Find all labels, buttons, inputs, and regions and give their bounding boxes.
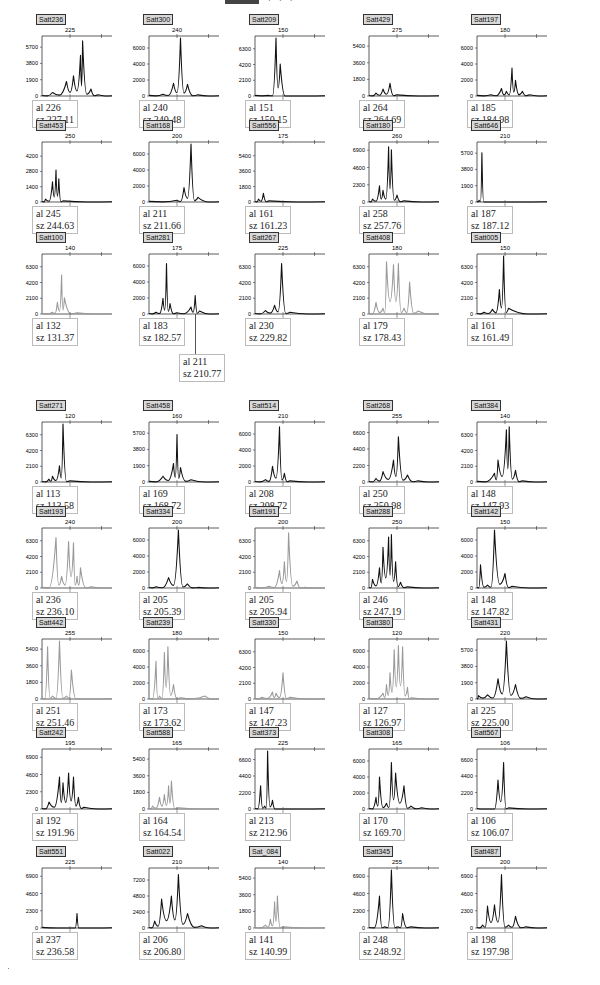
allele-callout: al 187sz 187.12 [467, 206, 513, 234]
plot-axes [42, 639, 112, 699]
allele-call: al 141 [249, 934, 287, 946]
allele-call: al 179 [363, 320, 401, 332]
allele-call: al 185 [471, 102, 509, 114]
y-tick-label: 6000 [461, 537, 473, 543]
y-tick-label: 1900 [26, 77, 38, 83]
fluorescence-trace [255, 751, 325, 809]
allele-call: al 225 [471, 705, 509, 717]
marker-panel: Satt5561750180036005400al 161sz 161.23 [233, 120, 353, 240]
marker-panel: Satt3301500210042006300al 147sz 147.23 [233, 617, 353, 737]
fluorescence-trace [255, 427, 325, 482]
y-tick-label: 3600 [353, 60, 365, 66]
electropherogram-plot: 2000200040006000 [127, 120, 247, 210]
y-tick-label: 4000 [133, 553, 145, 559]
plot-axes [149, 639, 219, 699]
y-tick-label: 6000 [133, 648, 145, 654]
y-tick-label: 1800 [239, 908, 251, 914]
marker-panel: Satt5671060220044006600al 106sz 106.07 [455, 727, 575, 847]
y-tick-label: 2000 [133, 680, 145, 686]
allele-call: al 211 [143, 208, 181, 220]
y-tick-label: 4400 [461, 773, 473, 779]
allele-call: al 161 [471, 320, 509, 332]
fluorescence-trace [149, 875, 219, 928]
plot-axes [477, 142, 547, 202]
allele-call: al 240 [143, 102, 181, 114]
y-tick-label: 4000 [133, 664, 145, 670]
allele-size: sz 257.76 [363, 220, 401, 232]
electropherogram-plot: 2100200040006000 [233, 400, 353, 490]
size-tick-label: 165 [172, 740, 183, 746]
allele-call: al 251 [36, 705, 74, 717]
allele-call: al 113 [36, 488, 74, 500]
y-tick-label: 2100 [26, 295, 38, 301]
fluorescence-trace [255, 896, 325, 928]
marker-panel: Satt1802600230046006900al 258sz 257.76 [347, 120, 467, 240]
size-tick-label: 260 [392, 133, 403, 139]
y-tick-label: 0 [142, 806, 145, 812]
y-tick-label: 4200 [26, 448, 38, 454]
y-tick-label: 4200 [353, 280, 365, 286]
electropherogram-plot: 2200190038005700 [455, 617, 575, 707]
y-tick-label: 6300 [26, 538, 38, 544]
y-tick-label: 5400 [353, 43, 365, 49]
marker-panel: Satt2882500210042006300al 246sz 247.19 [347, 506, 467, 626]
y-tick-label: 2000 [461, 569, 473, 575]
marker-panel: Satt4581600190038005700al 169sz 168.72 [127, 400, 247, 520]
y-tick-label: 6900 [461, 873, 473, 879]
allele-call: al 164 [143, 815, 181, 827]
y-tick-label: 6300 [461, 432, 473, 438]
y-tick-label: 1400 [26, 184, 38, 190]
allele-size: sz 131.37 [36, 332, 74, 344]
plot-axes [255, 749, 325, 809]
y-tick-label: 0 [470, 925, 473, 931]
y-tick-label: 4400 [239, 773, 251, 779]
electropherogram-plot: 1750200040006000 [127, 232, 247, 322]
electropherogram-plot: 1500200040006000 [455, 506, 575, 596]
electropherogram-plot: 2500140028004200 [20, 120, 140, 210]
marker-panel: Satt2362250190038005700al 226sz 227.11 [20, 14, 140, 134]
size-tick-label: 195 [65, 740, 76, 746]
plot-axes [369, 528, 439, 588]
allele-callout: al 161sz 161.49 [467, 318, 513, 346]
y-tick-label: 4200 [239, 280, 251, 286]
plot-axes [477, 422, 547, 482]
y-tick-label: 0 [248, 806, 251, 812]
marker-panel: Sat_0841400180036005400al 141sz 140.99 [233, 846, 353, 966]
y-tick-label: 0 [248, 311, 251, 317]
marker-panel: Satt2672250210042006300al 230sz 229.82 [233, 232, 353, 352]
electropherogram-plot: 1800210042006300 [347, 232, 467, 322]
size-tick-label: 140 [278, 859, 289, 865]
allele-callout: al 205sz 205.39 [139, 592, 185, 620]
electropherogram-plot: 1500210042006300 [233, 14, 353, 104]
fluorescence-trace [477, 763, 547, 809]
fluorescence-trace [369, 262, 439, 314]
marker-panel: Satt4872000230046006900al 198sz 197.98 [455, 846, 575, 966]
y-tick-label: 2300 [353, 182, 365, 188]
electropherogram-plot: 1400210042006300 [20, 232, 140, 322]
y-tick-label: 2000 [133, 569, 145, 575]
y-tick-label: 2100 [461, 295, 473, 301]
size-tick-label: 150 [278, 27, 289, 33]
allele-call: al 161 [249, 208, 287, 220]
allele-callout: al 246sz 247.19 [359, 592, 405, 620]
size-tick-label: 210 [172, 859, 183, 865]
electropherogram-plot: 1400210042006300 [455, 400, 575, 490]
y-tick-label: 0 [470, 199, 473, 205]
y-tick-label: 6600 [461, 757, 473, 763]
fluorescence-trace [255, 193, 325, 202]
marker-panel: Satt3002400200040006000al 240sz 240.48 [127, 14, 247, 134]
allele-size: sz 206.80 [143, 946, 181, 958]
allele-call: al 258 [363, 208, 401, 220]
fluorescence-trace [42, 170, 112, 202]
y-tick-label: 4000 [239, 447, 251, 453]
y-tick-label: 2100 [239, 77, 251, 83]
plot-axes [369, 36, 439, 96]
y-tick-label: 0 [35, 311, 38, 317]
y-tick-label: 3800 [26, 60, 38, 66]
size-tick-label: 255 [392, 413, 403, 419]
electropherogram-plot: 2100190038005700 [455, 120, 575, 210]
marker-panel: Satt1912000210042006300al 205sz 205.94 [233, 506, 353, 626]
size-tick-label: 200 [278, 519, 289, 525]
allele-callout: al 211sz 211.66 [139, 206, 185, 234]
allele-size: sz 182.57 [143, 332, 181, 344]
